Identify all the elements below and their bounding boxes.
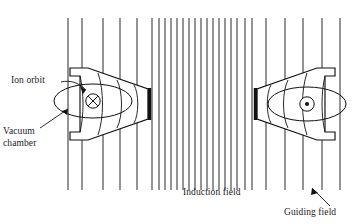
- vacuum-chamber-label-line2: chamber: [3, 138, 36, 148]
- guiding-field-label: Guiding field: [284, 207, 336, 219]
- vacuum-chamber-label-line1: Vacuum: [3, 126, 35, 136]
- vacuum-chamber-label: Vacuum chamber: [3, 126, 57, 149]
- induction-field-label: Induction field: [183, 187, 241, 199]
- cross-into-page-icon: [86, 94, 100, 108]
- ion-orbit-label: Ion orbit: [11, 75, 45, 87]
- figure-root: Ion orbit Vacuum chamber Induction field…: [0, 0, 355, 224]
- betatron-diagram: [0, 0, 355, 224]
- dot-out-of-page-icon: [300, 97, 314, 111]
